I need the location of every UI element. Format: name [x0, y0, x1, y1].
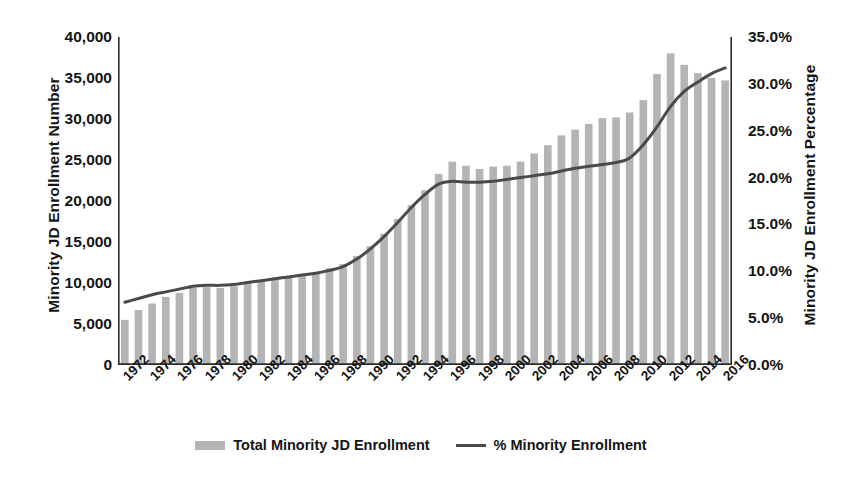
bar [339, 264, 347, 365]
bar [462, 166, 470, 365]
left-tick-label: 25,000 [65, 152, 112, 168]
bar [203, 287, 211, 365]
left-tick-label: 20,000 [65, 193, 112, 209]
right-tick-label: 10.0% [748, 263, 792, 279]
bar [667, 53, 675, 365]
chart-legend: Total Minority JD Enrollment % Minority … [0, 437, 842, 453]
legend-item-bars: Total Minority JD Enrollment [195, 437, 429, 453]
bar [448, 162, 456, 365]
bar [148, 304, 156, 366]
legend-label-bars: Total Minority JD Enrollment [233, 437, 429, 453]
left-tick-label: 5,000 [73, 316, 112, 332]
bar [708, 78, 716, 365]
bar [285, 277, 293, 365]
left-tick-label: 0 [103, 357, 112, 373]
bar [544, 145, 552, 365]
bar [653, 74, 661, 365]
bar-swatch-icon [195, 441, 225, 450]
bar [599, 118, 607, 365]
right-tick-label: 25.0% [748, 123, 792, 139]
bar [353, 256, 361, 365]
bar [257, 281, 265, 365]
right-tick-label: 35.0% [748, 29, 792, 45]
left-tick-label: 35,000 [65, 70, 112, 86]
bar [121, 320, 129, 365]
bar [721, 80, 729, 365]
bar [380, 234, 388, 365]
bar [312, 273, 320, 365]
legend-label-line: % Minority Enrollment [494, 437, 647, 453]
bar [680, 65, 688, 365]
bar [476, 169, 484, 365]
right-tick-label: 15.0% [748, 216, 792, 232]
legend-item-line: % Minority Enrollment [456, 437, 647, 453]
bar [585, 124, 593, 365]
bar [408, 205, 416, 365]
bar [326, 268, 334, 365]
bar [503, 166, 511, 365]
right-axis-tick-labels: 0.0%5.0%10.0%15.0%20.0%25.0%30.0%35.0% [748, 0, 828, 478]
right-tick-label: 0.0% [748, 357, 783, 373]
bar [421, 190, 429, 365]
left-tick-label: 10,000 [65, 275, 112, 291]
bar [626, 112, 634, 365]
left-tick-label: 30,000 [65, 111, 112, 127]
chart-container: Minority JD Enrollment Number Minority J… [0, 0, 842, 478]
bar [517, 162, 525, 365]
line-swatch-icon [456, 444, 486, 447]
bar [612, 117, 620, 365]
bar [435, 174, 443, 365]
bar [694, 73, 702, 365]
bar [530, 153, 538, 365]
left-tick-label: 15,000 [65, 234, 112, 250]
bar [571, 130, 579, 365]
left-axis-tick-labels: 05,00010,00015,00020,00025,00030,00035,0… [18, 0, 112, 478]
bar [394, 219, 402, 365]
right-tick-label: 20.0% [748, 170, 792, 186]
bar [489, 167, 497, 365]
plot-svg [118, 37, 732, 365]
plot-area [118, 37, 732, 365]
bar [367, 246, 375, 365]
right-tick-label: 30.0% [748, 76, 792, 92]
right-tick-label: 5.0% [748, 310, 783, 326]
bar [176, 293, 184, 365]
bar [230, 286, 238, 365]
left-tick-label: 40,000 [65, 29, 112, 45]
